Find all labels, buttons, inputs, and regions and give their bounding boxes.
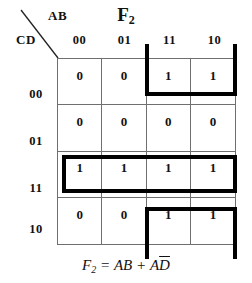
row-header-00: 00 xyxy=(19,87,53,102)
kmap-cell-r00-c10: 1 xyxy=(191,59,235,105)
rows-variable-label: CD xyxy=(16,32,36,48)
equation-lhs-subscript: 2 xyxy=(91,264,96,275)
kmap-figure: AB CD F2 00 01 11 10 00 01 11 10 0 0 1 1… xyxy=(0,0,252,283)
cell-value: 0 xyxy=(165,114,172,130)
column-header-00: 00 xyxy=(57,33,102,48)
equation-term2-d-complement: D xyxy=(159,257,170,274)
equation-equals: = xyxy=(100,257,110,273)
cell-value: 0 xyxy=(121,68,128,84)
kmap-cell-r10-c01: 0 xyxy=(102,198,146,244)
cell-value: 0 xyxy=(121,114,128,130)
cell-value: 0 xyxy=(76,114,83,130)
column-header-10: 10 xyxy=(192,33,237,48)
cell-value: 1 xyxy=(165,207,172,223)
equation-lhs-base: F xyxy=(82,257,91,273)
kmap-cell-r00-c01: 0 xyxy=(102,59,146,105)
result-equation: F2 = AB + AD xyxy=(0,257,252,275)
kmap-cell-r01-c01: 0 xyxy=(102,105,146,151)
cell-value: 0 xyxy=(210,114,217,130)
kmap-cell-r10-c10: 1 xyxy=(191,198,235,244)
kmap-cell-r01-c10: 0 xyxy=(191,105,235,151)
cell-value: 1 xyxy=(210,160,217,176)
kmap-cell-r10-c00: 0 xyxy=(58,198,102,244)
kmap-cell-r00-c00: 0 xyxy=(58,59,102,105)
kmap-cell-r00-c11: 1 xyxy=(147,59,191,105)
kmap-cell-r11-c01: 1 xyxy=(102,152,146,198)
kmap-grid: 0 0 1 1 0 0 0 0 1 1 1 1 0 0 1 1 xyxy=(57,58,236,245)
kmap-cell-r11-c10: 1 xyxy=(191,152,235,198)
page-title: F2 xyxy=(0,4,252,28)
cell-value: 0 xyxy=(76,68,83,84)
equation-term1: AB xyxy=(114,257,132,273)
cell-value: 1 xyxy=(165,68,172,84)
cell-value: 0 xyxy=(121,207,128,223)
equation-plus: + xyxy=(136,257,146,273)
row-header-01: 01 xyxy=(19,134,53,149)
equation-term2-a: A xyxy=(150,257,159,273)
cell-value: 1 xyxy=(210,68,217,84)
title-base: F xyxy=(117,4,129,25)
kmap-cell-r01-c00: 0 xyxy=(58,105,102,151)
row-header-10: 10 xyxy=(19,222,53,237)
cell-value: 1 xyxy=(165,160,172,176)
cell-value: 1 xyxy=(76,160,83,176)
column-header-01: 01 xyxy=(102,33,147,48)
cell-value: 1 xyxy=(121,160,128,176)
kmap-cell-r10-c11: 1 xyxy=(147,198,191,244)
title-subscript: 2 xyxy=(129,13,135,27)
cell-value: 1 xyxy=(210,207,217,223)
kmap-cell-r01-c11: 0 xyxy=(147,105,191,151)
cell-value: 0 xyxy=(76,207,83,223)
column-header-11: 11 xyxy=(147,33,192,48)
kmap-cell-r11-c00: 1 xyxy=(58,152,102,198)
kmap-cell-r11-c11: 1 xyxy=(147,152,191,198)
row-header-11: 11 xyxy=(19,181,53,196)
